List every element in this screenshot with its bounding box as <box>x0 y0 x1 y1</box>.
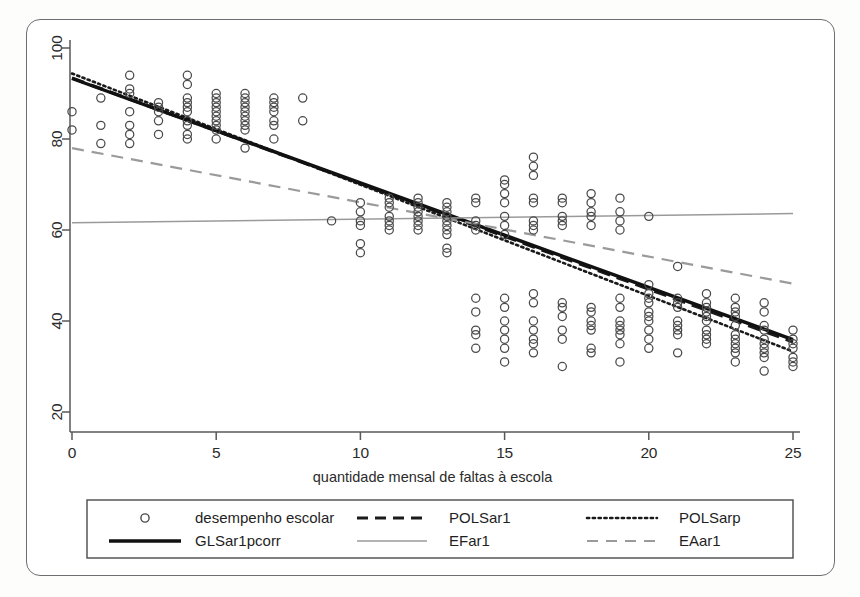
scatter-point <box>299 94 307 102</box>
scatter-point <box>616 208 624 216</box>
legend-label: POLSar1 <box>449 509 511 526</box>
scatter-point <box>616 226 624 234</box>
scatter-point <box>529 171 537 179</box>
scatter-point <box>645 212 653 220</box>
scatter-point <box>529 162 537 170</box>
scatter-point <box>529 290 537 298</box>
scatter-point <box>299 117 307 125</box>
scatter-point <box>558 326 566 334</box>
scatter-point <box>616 294 624 302</box>
scatter-point <box>154 117 162 125</box>
scatter-point <box>789 326 797 334</box>
scatter-point <box>558 335 566 343</box>
scatter-point <box>501 221 509 229</box>
x-tick-label-15: 15 <box>496 444 513 461</box>
scatter-point <box>501 199 509 207</box>
y-tick-label-40: 40 <box>48 312 65 329</box>
x-tick-label-0: 0 <box>68 444 77 461</box>
regression-line-POLSarp <box>72 73 793 351</box>
y-tick-label-100: 100 <box>48 35 65 61</box>
scatter-point <box>529 349 537 357</box>
scatter-point <box>558 362 566 370</box>
scatter-point <box>501 335 509 343</box>
scatter-point <box>501 190 509 198</box>
scatter-point <box>760 367 768 375</box>
scatter-point <box>68 126 76 134</box>
scatter-point <box>270 135 278 143</box>
x-tick-label-25: 25 <box>785 444 802 461</box>
scatter-point <box>501 303 509 311</box>
scatter-point <box>731 294 739 302</box>
scatter-point <box>501 212 509 220</box>
legend-label: desempenho escolar <box>195 509 334 526</box>
scatter-point <box>760 299 768 307</box>
scatter-point <box>760 308 768 316</box>
scatter-point <box>126 130 134 138</box>
y-tick-label-20: 20 <box>48 403 65 420</box>
scatter-point <box>154 130 162 138</box>
scatter-point <box>501 326 509 334</box>
scatter-point <box>356 240 364 248</box>
scatter-point <box>97 121 105 129</box>
scatter-point <box>616 217 624 225</box>
scatter-point <box>558 312 566 320</box>
scatter-point <box>529 326 537 334</box>
axis-labels-layer: quantidade mensal de faltas à escola <box>313 469 553 485</box>
scatter-point <box>731 358 739 366</box>
scatter-point <box>183 71 191 79</box>
scatter-point <box>529 153 537 161</box>
scatter-point <box>212 135 220 143</box>
scatter-point <box>529 299 537 307</box>
scatter-point <box>645 326 653 334</box>
scatter-point <box>472 308 480 316</box>
scatter-point <box>501 358 509 366</box>
scatter-point <box>472 344 480 352</box>
scatter-point <box>587 199 595 207</box>
scatter-point <box>645 344 653 352</box>
y-tick-label-80: 80 <box>48 130 65 147</box>
scatter-point <box>126 71 134 79</box>
legend-label: EFar1 <box>449 532 490 549</box>
scatter-point <box>356 208 364 216</box>
scatter-point <box>97 139 105 147</box>
scatter-point <box>126 121 134 129</box>
scatter-point <box>327 217 335 225</box>
legend-label: EAar1 <box>679 532 721 549</box>
scatter-point <box>356 249 364 257</box>
scatter-point <box>241 144 249 152</box>
scatter-point <box>126 108 134 116</box>
scatter-plot-canvas: 204060801000510152025 quantidade mensal … <box>0 0 860 597</box>
scatter-point <box>616 358 624 366</box>
regression-line-EAar1 <box>72 148 793 284</box>
scatter-point <box>616 303 624 311</box>
scatter-point <box>501 317 509 325</box>
x-tick-label-20: 20 <box>640 444 657 461</box>
scatter-point <box>126 139 134 147</box>
regression-lines-layer <box>72 73 793 351</box>
legend-label: POLSarp <box>679 509 741 526</box>
regression-line-GLSar1pcorr <box>72 78 793 339</box>
x-tick-label-5: 5 <box>212 444 220 461</box>
scatter-point <box>674 262 682 270</box>
chart-legend[interactable]: desempenho escolarPOLSar1POLSarpGLSar1pc… <box>87 500 793 558</box>
scatter-point <box>68 108 76 116</box>
scatter-point <box>674 349 682 357</box>
scatter-point <box>529 317 537 325</box>
x-tick-label-10: 10 <box>352 444 369 461</box>
scatter-point <box>587 221 595 229</box>
scatter-point <box>702 290 710 298</box>
scatter-point <box>501 344 509 352</box>
scatter-point <box>501 294 509 302</box>
scatter-point <box>587 190 595 198</box>
scatter-point <box>183 80 191 88</box>
scatter-point <box>645 335 653 343</box>
scatter-point <box>97 94 105 102</box>
scatter-point <box>616 340 624 348</box>
legend-label: GLSar1pcorr <box>195 532 281 549</box>
figure-root: 204060801000510152025 quantidade mensal … <box>0 0 860 597</box>
y-tick-label-60: 60 <box>48 221 65 238</box>
x-axis-title: quantidade mensal de faltas à escola <box>313 469 553 485</box>
scatter-point <box>616 194 624 202</box>
scatter-point <box>472 294 480 302</box>
